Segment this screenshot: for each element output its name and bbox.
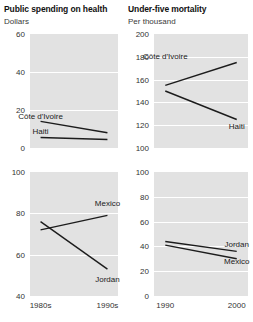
series-line-segment bbox=[165, 245, 236, 259]
series-lines bbox=[0, 0, 253, 322]
series-line-segment bbox=[165, 241, 236, 251]
figure-root: Public spending on health Dollars Under-… bbox=[0, 0, 253, 322]
